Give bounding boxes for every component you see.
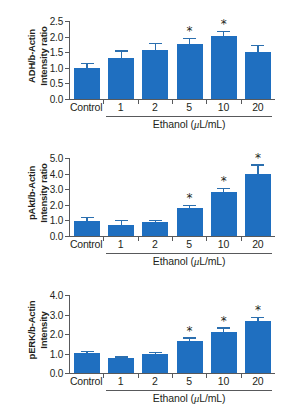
bar-group: [241, 22, 275, 99]
y-tick-label: 3.0: [50, 309, 63, 320]
bar: [245, 321, 271, 373]
x-tick-label: 5: [186, 101, 192, 113]
error-bar: [257, 46, 258, 52]
y-tick-label: 0.0: [50, 231, 63, 242]
x-tick-label: 2: [152, 101, 158, 113]
bar-group: [70, 159, 104, 236]
significance-asterisk: *: [187, 327, 193, 335]
error-bar: [121, 358, 122, 359]
error-bar: [223, 189, 224, 192]
bar-group: [70, 22, 104, 99]
x-axis-title-suffix: L/mL): [199, 255, 225, 267]
y-tick-label: 1.0: [50, 348, 63, 359]
bar: [74, 68, 100, 99]
y-tick-label: 0.0: [50, 368, 63, 379]
x-tick-label: 20: [252, 375, 263, 387]
chart-panel-c: pERK/b-Actin Intensity0.01.02.03.04.0***…: [0, 274, 288, 412]
x-axis-title-suffix: L/mL): [199, 392, 225, 404]
x-tick-label: 1: [118, 375, 124, 387]
bar-group: *: [173, 296, 207, 373]
x-group-underline: [106, 253, 272, 254]
x-axis-title-prefix: Ethanol (: [153, 255, 194, 267]
plot-area: 0.00.51.01.52.02.5**: [69, 22, 275, 100]
bar-group: *: [241, 159, 275, 236]
y-tick-label: 4.0: [50, 168, 63, 179]
error-bar: [86, 352, 87, 353]
y-tick-label: 2.0: [50, 329, 63, 340]
chart-panel-b: pAkt/b-Actin Intensity ratio0.01.02.03.0…: [0, 137, 288, 274]
bar-group: [104, 159, 138, 236]
error-bar: [257, 166, 258, 175]
error-bar-cap: [149, 43, 162, 44]
bar-group: *: [241, 296, 275, 373]
x-tick-label: 10: [218, 375, 229, 387]
error-bar-cap: [251, 45, 264, 46]
bar-group: [138, 296, 172, 373]
bar: [245, 174, 271, 236]
bar-group: *: [207, 22, 241, 99]
x-tick-label: 5: [186, 238, 192, 250]
error-bar: [257, 318, 258, 321]
x-group-underline: [106, 390, 272, 391]
x-tick-label: 20: [252, 238, 263, 250]
bar: [211, 36, 237, 99]
x-axis-title: Ethanol (μL/mL): [153, 392, 226, 404]
error-bar: [189, 39, 190, 44]
error-bar: [189, 339, 190, 341]
bar: [74, 353, 100, 373]
plot-area: 0.01.02.03.04.05.0***: [69, 159, 275, 237]
error-bar: [121, 52, 122, 58]
error-bar: [155, 221, 156, 223]
significance-asterisk: *: [187, 27, 193, 35]
bar: [142, 354, 168, 373]
error-bar: [223, 329, 224, 332]
bar: [74, 221, 100, 236]
error-bar-cap: [81, 63, 94, 64]
bar-series: ***: [70, 296, 275, 373]
y-tick-label: 3.0: [50, 184, 63, 195]
bar-group: [104, 22, 138, 99]
y-tick-label: 1.0: [50, 62, 63, 73]
error-bar: [155, 353, 156, 354]
x-axis-title-prefix: Ethanol (: [153, 118, 194, 130]
x-axis-title-prefix: Ethanol (: [153, 392, 194, 404]
y-tick-label: 2.5: [50, 16, 63, 27]
y-axis-title: pAkt/b-Actin Intensity ratio: [26, 145, 52, 241]
y-tick-label: 0.5: [50, 78, 63, 89]
bar-group: [104, 296, 138, 373]
error-bar-cap: [81, 351, 94, 352]
error-bar: [121, 221, 122, 225]
y-axis-title: pERK/b-Actin Intensity: [26, 282, 52, 378]
error-bar-cap: [115, 50, 128, 51]
x-tick-label: 1: [118, 101, 124, 113]
x-tick-label: 10: [218, 238, 229, 250]
bar-group: *: [173, 159, 207, 236]
y-tick-label: 1.5: [50, 47, 63, 58]
bar: [177, 208, 203, 236]
bar-group: [138, 22, 172, 99]
bar: [177, 44, 203, 99]
error-bar: [189, 206, 190, 207]
y-tick-label: 0.0: [50, 94, 63, 105]
x-tick-labels: Control1251020: [69, 238, 275, 252]
x-group-underline: [106, 116, 272, 117]
x-tick-label: Control: [70, 238, 102, 250]
significance-asterisk: *: [255, 306, 261, 314]
bar-series: **: [70, 22, 275, 99]
significance-asterisk: *: [187, 194, 193, 202]
y-tick-label: 2.0: [50, 31, 63, 42]
bar-group: *: [207, 159, 241, 236]
error-bar-cap: [115, 220, 128, 221]
error-bar-cap: [149, 352, 162, 353]
chart-panel-a: ADH/b-Actin Intensity ratio0.00.51.01.52…: [0, 0, 288, 137]
bar-series: ***: [70, 159, 275, 236]
x-tick-labels: Control1251020: [69, 101, 275, 115]
x-tick-label: 2: [152, 238, 158, 250]
bar-group: [138, 159, 172, 236]
bar: [211, 332, 237, 373]
x-tick-label: 2: [152, 375, 158, 387]
bar: [142, 50, 168, 99]
bar: [177, 341, 203, 373]
x-tick-label: 10: [218, 101, 229, 113]
significance-asterisk: *: [221, 177, 227, 185]
